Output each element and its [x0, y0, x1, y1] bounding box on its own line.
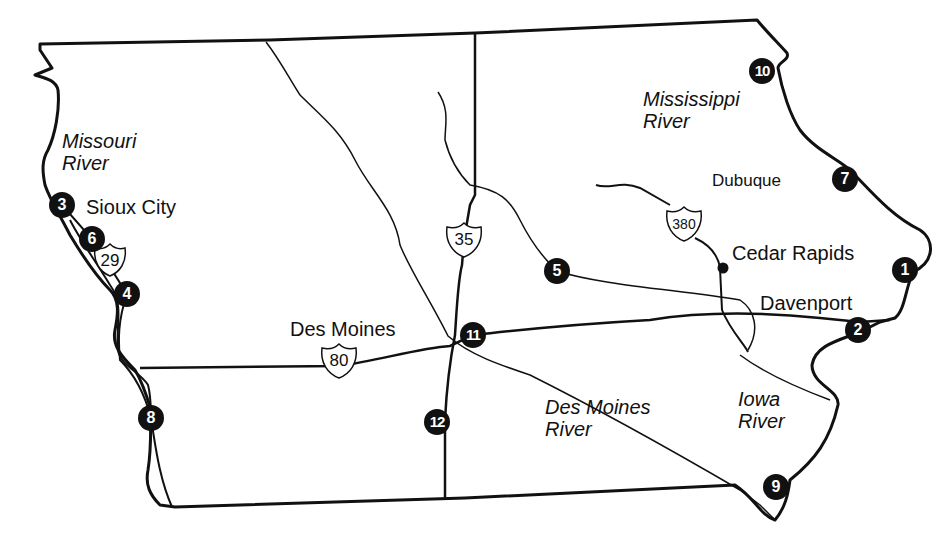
map-marker-11[interactable]: 11 [460, 322, 486, 348]
interstate-29-road [62, 205, 151, 418]
map-marker-10[interactable]: 10 [749, 58, 775, 84]
map-marker-12[interactable]: 12 [424, 409, 450, 435]
interstate-80-road [140, 314, 890, 368]
des-moines-river-label: Des Moines River [545, 396, 651, 440]
shield-number: 35 [444, 230, 484, 250]
label-line: Mississippi [643, 88, 740, 110]
cedar-rapids-dot [718, 263, 729, 274]
map-marker-4[interactable]: 4 [114, 281, 140, 307]
mississippi-river-label: Mississippi River [643, 88, 740, 132]
shield-number: 80 [319, 351, 359, 371]
label-line: River [738, 410, 785, 432]
city-label-des-moines: Des Moines [290, 318, 396, 340]
label-line: River [62, 152, 136, 174]
map-marker-8[interactable]: 8 [138, 405, 164, 431]
interstate-35-road [445, 33, 475, 500]
shield-number: 29 [92, 251, 128, 271]
iowa-map [0, 0, 952, 542]
label-line: Missouri [62, 130, 136, 152]
map-marker-5[interactable]: 5 [544, 258, 570, 284]
interstate-35-shield: 35 [444, 221, 484, 259]
label-line: Des Moines [545, 396, 651, 418]
interstate-80-shield: 80 [319, 342, 359, 380]
shield-number: 380 [664, 216, 704, 232]
city-label-cedar-rapids: Cedar Rapids [732, 242, 854, 264]
missouri-river-label: Missouri River [62, 130, 136, 174]
map-marker-7[interactable]: 7 [832, 166, 858, 192]
label-line: Iowa [738, 388, 785, 410]
city-label-sioux-city: Sioux City [86, 196, 176, 218]
map-marker-3[interactable]: 3 [49, 192, 75, 218]
map-marker-6[interactable]: 6 [79, 226, 105, 252]
interstate-380-shield: 380 [664, 205, 704, 243]
label-line: River [643, 110, 740, 132]
city-label-dubuque: Dubuque [712, 170, 781, 192]
map-marker-9[interactable]: 9 [763, 474, 789, 500]
map-marker-2[interactable]: 2 [845, 317, 871, 343]
map-marker-1[interactable]: 1 [892, 257, 918, 283]
city-label-davenport: Davenport [760, 292, 852, 314]
label-line: River [545, 418, 651, 440]
state-border [35, 20, 930, 520]
iowa-river-label: Iowa River [738, 388, 785, 432]
